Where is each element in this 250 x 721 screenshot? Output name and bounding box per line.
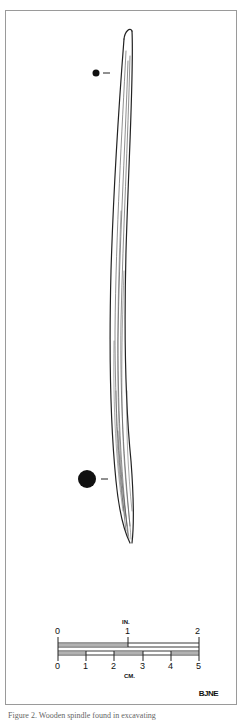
scale-cm-tick-2: 2 — [111, 662, 116, 671]
scale-inch-tick-2: 2 — [195, 627, 200, 636]
scale-inch-tick-1: 1 — [125, 627, 130, 636]
artist-initials: BJNE — [199, 689, 218, 698]
scale-cm-tick-0: 0 — [55, 662, 60, 671]
scale-inch-unit-label: IN. — [122, 619, 130, 625]
scale-cm-tick-4: 4 — [168, 662, 173, 671]
cross-section-marker-upper — [93, 70, 100, 77]
scale-inch-tick-0: 0 — [55, 627, 60, 636]
spindle-illustration — [6, 11, 238, 706]
scale-cm-tick-1: 1 — [83, 662, 88, 671]
figure-caption: Figure 2. Wooden spindle found in excava… — [8, 711, 248, 721]
scale-cm-tick-3: 3 — [140, 662, 145, 671]
scale-cm-unit-label: CM. — [124, 673, 135, 679]
cross-section-marker-lower — [78, 470, 96, 488]
figure-frame: IN. 0 1 2 0 1 2 3 4 5 CM. BJNE — [5, 10, 237, 705]
scale-cm-tick-5: 5 — [196, 662, 201, 671]
